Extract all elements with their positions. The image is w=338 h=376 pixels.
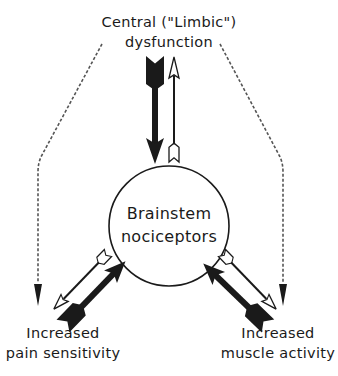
dashed-arrowhead-left <box>34 284 42 306</box>
dashed-arrowhead-right <box>279 284 287 306</box>
node-top-line2: dysfunction <box>69 32 269 52</box>
node-center-line1: Brainstem <box>109 202 229 225</box>
node-top-line1: Central ("Limbic") <box>69 12 269 32</box>
node-bottom-left-label: Increased pain sensitivity <box>0 323 126 363</box>
node-bottom-right-label: Increased muscle activity <box>216 323 338 363</box>
node-bottom-right-line1: Increased <box>216 323 338 343</box>
diagram-canvas <box>0 0 338 376</box>
node-bottom-right-line2: muscle activity <box>216 343 338 363</box>
node-bottom-left-line2: pain sensitivity <box>0 343 126 363</box>
arrow-center-to-top-thin <box>169 57 179 162</box>
dashed-line-top-to-muscleactivity <box>220 44 283 283</box>
node-center-label: Brainstem nociceptors <box>109 202 229 248</box>
arrow-top-to-center-thick <box>146 56 164 164</box>
arrow-center-to-muscleactivity-thin <box>218 250 279 313</box>
node-top-label: Central ("Limbic") dysfunction <box>69 12 269 52</box>
dashed-line-top-to-painsensitivity <box>38 44 102 283</box>
node-bottom-left-line1: Increased <box>0 323 126 343</box>
node-center-line2: nociceptors <box>109 225 229 248</box>
